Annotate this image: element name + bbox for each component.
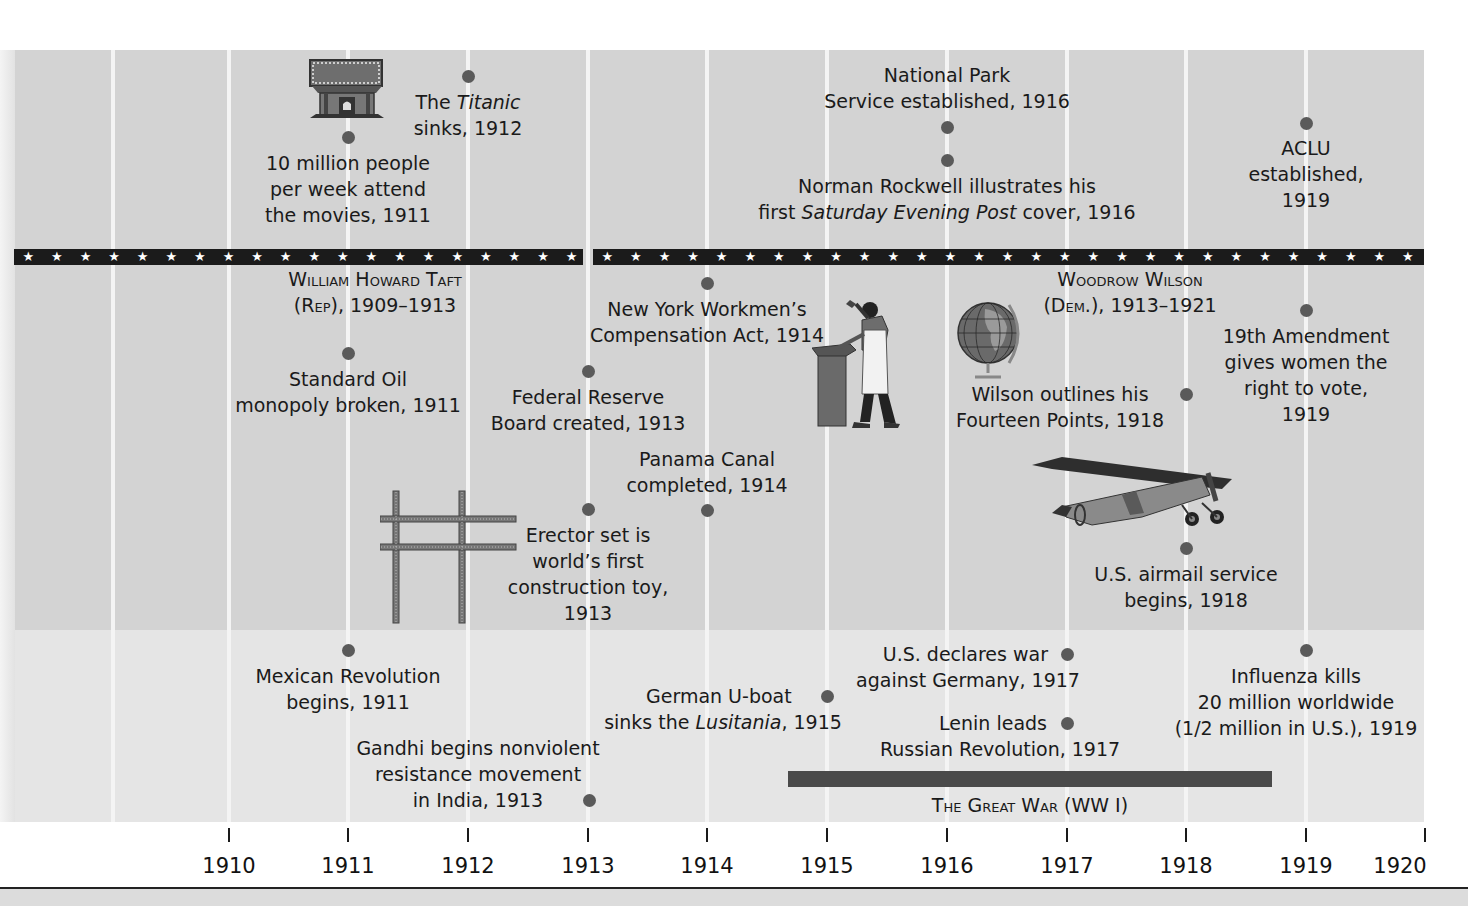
event-dot-rockwell xyxy=(941,154,954,167)
axis-tick-1919 xyxy=(1305,828,1307,842)
star-band-wilson: ★★★★★★★★★★★★★★★★★★★★★★★★★★★★★ xyxy=(593,249,1424,265)
axis-tick-1920 xyxy=(1424,828,1426,842)
axis-tick-1911 xyxy=(347,828,349,842)
event-dot-gandhi xyxy=(583,794,596,807)
year-column-line-1917 xyxy=(1065,50,1069,822)
event-movies: 10 million people per week attend the mo… xyxy=(248,150,448,228)
axis-label-1915: 1915 xyxy=(787,852,867,880)
event-workmens-comp: New York Workmen’s Compensation Act, 191… xyxy=(577,296,837,348)
year-column-line-1909 xyxy=(111,50,115,822)
axis-label-1910: 1910 xyxy=(189,852,269,880)
axis-tick-1913 xyxy=(587,828,589,842)
event-dot-aclu xyxy=(1300,117,1313,130)
event-airmail: U.S. airmail service begins, 1918 xyxy=(1076,561,1296,613)
axis-label-1911: 1911 xyxy=(308,852,388,880)
axis-tick-1918 xyxy=(1185,828,1187,842)
globe-icon xyxy=(955,297,1025,383)
president-wilson: Woodrow Wilson (Dem.), 1913–1921 xyxy=(1000,266,1260,318)
event-dot-airmail xyxy=(1180,542,1193,555)
event-lenin: Lenin leads Russian Revolution, 1917 xyxy=(868,710,1132,762)
event-dot-fourteen-points xyxy=(1180,388,1193,401)
event-dot-titanic xyxy=(462,70,475,83)
axis-tick-1910 xyxy=(228,828,230,842)
great-war-label: The Great War (WW I) xyxy=(880,792,1180,818)
event-us-declares-war: U.S. declares war against Germany, 1917 xyxy=(848,641,1088,693)
event-dot-panama-canal xyxy=(701,504,714,517)
event-dot-us-declares-war xyxy=(1061,648,1074,661)
event-dot-movies xyxy=(342,131,355,144)
event-dot-influenza xyxy=(1300,644,1313,657)
event-dot-lusitania xyxy=(821,690,834,703)
event-dot-mexican-revolution xyxy=(342,644,355,657)
president-wilson-term: (Dem.), 1913–1921 xyxy=(1000,292,1260,318)
event-fourteen-points: Wilson outlines his Fourteen Points, 191… xyxy=(940,381,1180,433)
event-standard-oil: Standard Oil monopoly broken, 1911 xyxy=(223,366,473,418)
event-mexican-revolution: Mexican Revolution begins, 1911 xyxy=(228,663,468,715)
event-aclu: ACLU established, 1919 xyxy=(1236,135,1376,213)
event-19th-amendment: 19th Amendment gives women the right to … xyxy=(1206,323,1406,427)
movie-theater-icon xyxy=(308,58,386,120)
event-dot-erector-set xyxy=(582,503,595,516)
axis-tick-1917 xyxy=(1066,828,1068,842)
president-taft-name: William Howard Taft xyxy=(240,266,510,292)
event-national-park: National Park Service established, 1916 xyxy=(797,62,1097,114)
axis-tick-1912 xyxy=(467,828,469,842)
event-dot-workmens-comp xyxy=(701,277,714,290)
axis-label-1912: 1912 xyxy=(428,852,508,880)
page-edge-shadow xyxy=(0,50,15,822)
blacksmith-icon xyxy=(812,298,904,428)
year-column-line-1913 xyxy=(586,50,590,822)
event-dot-19th-amendment xyxy=(1300,304,1313,317)
axis-label-1916: 1916 xyxy=(907,852,987,880)
event-influenza: Influenza kills 20 million worldwide (1/… xyxy=(1164,663,1428,741)
event-titanic: The Titanic sinks, 1912 xyxy=(398,89,538,141)
axis-tick-1914 xyxy=(706,828,708,842)
great-war-period-bar xyxy=(788,771,1272,787)
event-rockwell: Norman Rockwell illustrates his first Sa… xyxy=(737,173,1157,225)
axis-label-1914: 1914 xyxy=(667,852,747,880)
axis-tick-1916 xyxy=(946,828,948,842)
page-footer-strip xyxy=(0,889,1468,906)
event-dot-lenin xyxy=(1061,717,1074,730)
airplane-icon xyxy=(1032,455,1252,530)
event-panama-canal: Panama Canal completed, 1914 xyxy=(607,446,807,498)
event-dot-national-park xyxy=(941,121,954,134)
axis-label-1917: 1917 xyxy=(1027,852,1107,880)
axis-label-1920: 1920 xyxy=(1360,852,1440,880)
event-gandhi: Gandhi begins nonviolent resistance move… xyxy=(348,735,608,813)
event-erector-set: Erector set is world’s first constructio… xyxy=(488,522,688,626)
axis-label-1919: 1919 xyxy=(1266,852,1346,880)
event-dot-federal-reserve xyxy=(582,365,595,378)
president-wilson-name: Woodrow Wilson xyxy=(1000,266,1260,292)
star-band-taft: ★★★★★★★★★★★★★★★★★★★★ xyxy=(14,249,583,265)
axis-tick-1915 xyxy=(826,828,828,842)
president-taft: William Howard Taft (Rep), 1909–1913 xyxy=(240,266,510,318)
event-dot-standard-oil xyxy=(342,347,355,360)
event-federal-reserve: Federal Reserve Board created, 1913 xyxy=(478,384,698,436)
president-taft-term: (Rep), 1909–1913 xyxy=(240,292,510,318)
axis-label-1913: 1913 xyxy=(548,852,628,880)
event-lusitania: German U-boat sinks the Lusitania, 1915 xyxy=(598,683,848,735)
axis-label-1918: 1918 xyxy=(1146,852,1226,880)
